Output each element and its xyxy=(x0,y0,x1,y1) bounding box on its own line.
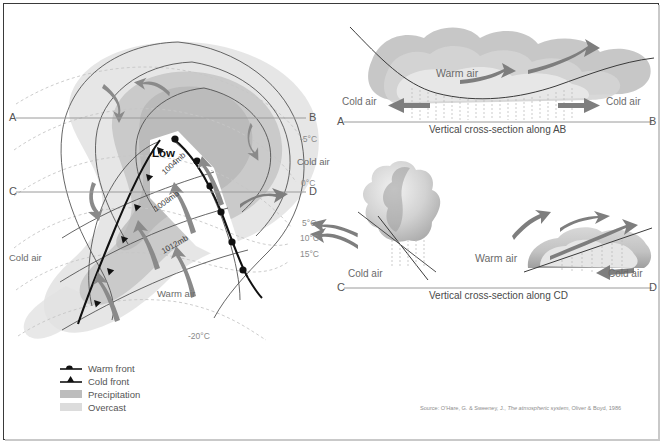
source-suffix: , Oliver & Boyd, 1986 xyxy=(568,405,621,411)
cross-section-ab-graphics xyxy=(344,27,654,122)
main-label-a: A xyxy=(9,111,16,123)
isotherm-label-15: 15°C xyxy=(300,249,319,259)
main-label-c: C xyxy=(9,185,17,197)
cd-cold-air-right: Cold air xyxy=(608,268,642,279)
isotherm-label-10: 10°C xyxy=(300,233,319,243)
source-title: The atmospheric system xyxy=(507,405,568,411)
cd-caption: Vertical cross-section along CD xyxy=(429,290,568,301)
legend-label-warm-front: Warm front xyxy=(88,363,135,374)
main-label-b: B xyxy=(309,111,316,123)
ab-warm-air-label: Warm air xyxy=(436,67,478,79)
warm-front-tail xyxy=(248,278,262,298)
source-citation: Source: O'Hare, G. & Sweeney, J., The at… xyxy=(420,405,621,411)
ab-cold-air-left: Cold air xyxy=(342,96,376,107)
main-cold-air-right: Cold air xyxy=(297,156,330,167)
ab-caption: Vertical cross-section along AB xyxy=(429,124,566,135)
cd-warm-air-label: Warm air xyxy=(475,252,517,264)
ab-label-a: A xyxy=(337,115,344,127)
low-pressure-label: Low xyxy=(152,147,175,159)
legend-label-cold-front: Cold front xyxy=(88,376,129,387)
isotherm-label-0: 0°C xyxy=(301,178,315,188)
source-prefix: Source: O'Hare, G. & Sweeney, J., xyxy=(420,405,506,411)
weather-diagram-figure: A B C D Low 1004mb 1008mb 1012mb -5°C 0°… xyxy=(0,0,664,445)
main-warm-air: Warm air xyxy=(157,288,195,299)
cd-label-d: D xyxy=(649,281,657,293)
cd-label-c: C xyxy=(337,281,345,293)
legend-label-overcast: Overcast xyxy=(88,402,126,413)
isotherm-label-minus5: -5°C xyxy=(300,134,317,144)
ab-label-b: B xyxy=(649,115,656,127)
isotherm-label-minus20: -20°C xyxy=(188,331,210,341)
ab-cold-air-right: Cold air xyxy=(606,96,640,107)
legend-label-precipitation: Precipitation xyxy=(88,389,140,400)
isotherm-label-5: 5°C xyxy=(302,218,316,228)
legend-symbols xyxy=(60,366,82,411)
cd-cold-air-left: Cold air xyxy=(348,268,382,279)
main-cold-air-left: Cold air xyxy=(9,252,42,263)
